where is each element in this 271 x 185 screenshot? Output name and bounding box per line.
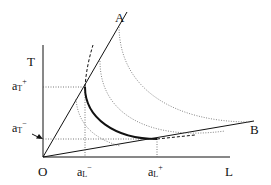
- tick-at-plus: aT+: [12, 77, 27, 93]
- tick-al-plus: aL+: [148, 163, 163, 179]
- dashed-extension-upper: [85, 45, 93, 87]
- iso-curve-outer: [119, 27, 250, 122]
- efficient-curve: [85, 87, 157, 139]
- l-axis-label: L: [225, 164, 233, 179]
- diagram-canvas: T L O A B aT+ aT− aL− aL+: [0, 0, 271, 185]
- origin-label: O: [38, 164, 47, 179]
- iso-curve-middle: [100, 61, 225, 133]
- tick-al-minus: aL−: [77, 163, 92, 179]
- ray-b-label: B: [250, 122, 259, 137]
- t-axis-label: T: [27, 54, 35, 69]
- ray-a-label: A: [115, 10, 125, 25]
- tick-at-minus: aT−: [12, 119, 27, 135]
